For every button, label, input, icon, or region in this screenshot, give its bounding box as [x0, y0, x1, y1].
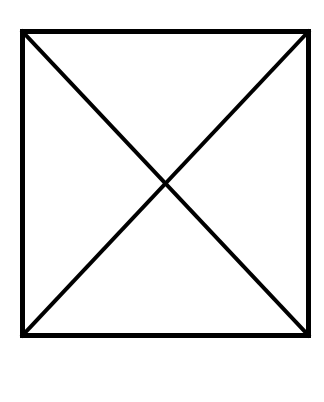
- figure-canvas: [0, 0, 324, 402]
- square-with-diagonals-figure: [0, 0, 324, 402]
